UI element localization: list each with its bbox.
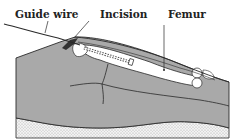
femur-leader-dot (163, 69, 165, 71)
guide-wire (4, 24, 80, 45)
label-guide-wire: Guide wire (15, 9, 79, 20)
label-femur: Femur (168, 9, 206, 20)
knee-condyle-lower (192, 78, 202, 88)
label-incision: Incision (100, 9, 147, 20)
guide-wire-leader (45, 21, 48, 33)
incision-leader (74, 21, 89, 38)
illustration-canvas (0, 0, 239, 139)
